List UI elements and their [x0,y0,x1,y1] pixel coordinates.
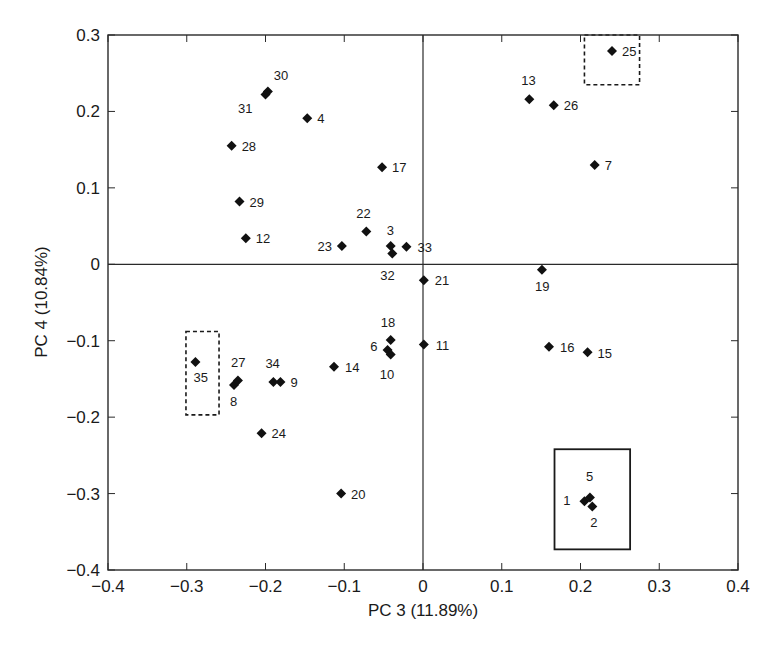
point-label: 16 [560,340,574,355]
y-tick-label: 0 [91,255,100,274]
point-label: 6 [370,339,377,354]
data-point: 33 [401,240,431,255]
y-tick-label: −0.1 [66,332,100,351]
diamond-marker-icon [235,197,245,207]
diamond-marker-icon [549,100,559,110]
zero-lines [108,35,738,570]
x-tick-label: −0.2 [249,577,283,596]
point-label: 7 [605,158,612,173]
diamond-marker-icon [329,362,339,372]
x-tick-label: 0.3 [647,577,671,596]
data-point: 4 [302,111,324,126]
point-label: 3 [387,223,394,238]
diamond-marker-icon [419,275,429,285]
diamond-marker-icon [257,428,267,438]
point-label: 31 [238,101,252,116]
point-label: 26 [564,98,578,113]
data-point: 3 [386,223,396,251]
point-label: 22 [356,206,370,221]
diamond-marker-icon [377,162,387,172]
y-tick-label: 0.3 [76,26,100,45]
point-label: 20 [351,487,365,502]
y-tick-label: −0.3 [66,485,100,504]
data-point: 26 [549,98,578,113]
diamond-marker-icon [590,160,600,170]
x-tick-label: 0.2 [569,577,593,596]
x-tick-label: 0.1 [490,577,514,596]
data-point: 34 [265,356,279,387]
y-axis-title: PC 4 (10.84%) [32,246,51,358]
diamond-marker-icon [302,113,312,123]
diamond-marker-icon [583,347,593,357]
data-point: 20 [336,487,365,502]
point-label: 12 [256,231,270,246]
data-point: 1 [563,493,589,508]
point-label: 27 [231,355,245,370]
point-label: 29 [250,195,264,210]
point-label: 9 [290,375,297,390]
data-point: 2 [587,502,597,530]
data-point: 9 [275,375,297,390]
y-tick-label: 0.2 [76,102,100,121]
diamond-marker-icon [227,141,237,151]
x-tick-label: 0 [418,577,427,596]
diamond-marker-icon [419,340,429,350]
point-label: 15 [598,346,612,361]
data-point: 24 [257,426,286,441]
diamond-marker-icon [524,94,534,104]
x-tick-label: 0.4 [726,577,750,596]
point-label: 8 [230,394,237,409]
data-point: 16 [544,340,574,355]
diamond-marker-icon [361,226,371,236]
point-label: 18 [381,315,395,330]
point-label: 1 [563,493,570,508]
data-point: 7 [590,158,612,173]
y-tick-label: −0.4 [66,561,100,580]
y-axis: 0.30.20.10−0.1−0.2−0.3−0.4 [66,26,738,580]
point-label: 30 [274,68,288,83]
data-point: 17 [377,160,406,175]
point-label: 35 [193,370,207,385]
diamond-marker-icon [537,265,547,275]
point-label: 14 [345,360,359,375]
diamond-marker-icon [241,233,251,243]
x-tick-label: −0.1 [327,577,361,596]
diamond-marker-icon [386,335,396,345]
point-label: 2 [590,515,597,530]
diamond-marker-icon [336,489,346,499]
data-point: 15 [583,346,612,361]
diamond-marker-icon [401,242,411,252]
x-axis: −0.4−0.3−0.2−0.100.10.20.30.4 [91,35,750,596]
data-point: 28 [227,139,256,154]
data-point: 22 [356,206,371,236]
x-tick-label: −0.3 [170,577,204,596]
dashed-highlight-box [584,35,639,85]
point-label: 34 [265,356,279,371]
data-point: 29 [235,195,264,210]
data-point: 35 [190,357,207,385]
data-point: 12 [241,231,270,246]
point-label: 19 [535,279,549,294]
data-point: 5 [585,469,595,502]
data-point: 31 [238,90,270,116]
y-tick-label: 0.1 [76,179,100,198]
point-label: 28 [242,139,256,154]
diamond-marker-icon [544,342,554,352]
diamond-marker-icon [190,357,200,367]
point-label: 11 [436,338,450,353]
point-label: 33 [417,240,431,255]
diamond-marker-icon [386,241,396,251]
data-point: 32 [380,249,397,283]
point-label: 23 [317,239,331,254]
diamond-marker-icon [387,249,397,259]
data-point: 18 [381,315,396,345]
point-label: 10 [380,367,394,382]
data-point: 14 [329,360,359,375]
data-point: 13 [521,73,535,104]
x-axis-title: PC 3 (11.89%) [368,601,478,620]
data-point: 23 [317,239,346,254]
data-point: 10 [380,349,396,382]
point-label: 21 [435,273,449,288]
scatter-chart: −0.4−0.3−0.2−0.100.10.20.30.4 0.30.20.10… [0,0,777,650]
diamond-marker-icon [268,377,278,387]
